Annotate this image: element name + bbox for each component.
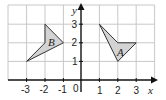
x-tick-label: 2 (115, 85, 121, 96)
shape-b-label: B (48, 36, 55, 48)
x-tick-label: -1 (58, 84, 67, 95)
y-tick-label: 1 (72, 56, 78, 67)
y-tick-label: 3 (72, 19, 78, 30)
x-tick-label: 3 (134, 85, 140, 96)
origin-label: 0 (73, 83, 79, 94)
x-axis-label: x (147, 84, 153, 96)
coordinate-diagram: B A -3 -2 -1 1 2 3 0 1 2 3 y x (0, 0, 166, 100)
x-tick-label: 1 (97, 85, 103, 96)
x-tick-label: -2 (40, 84, 49, 95)
y-tick-label: 2 (72, 37, 78, 48)
y-axis-label: y (71, 4, 77, 16)
y-axis-arrow-icon (78, 3, 85, 10)
shape-a-label: A (116, 46, 124, 58)
x-tick-label: -3 (21, 84, 30, 95)
